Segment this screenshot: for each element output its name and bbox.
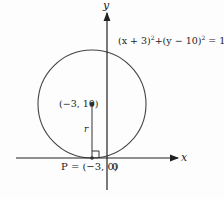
x-axis-label: x [181, 151, 188, 164]
center-label: (−3, 10) [59, 98, 99, 109]
tangent-point [90, 156, 94, 160]
diagram-canvas: y x 0 P = (−3, 0) (−3, 10) r (x + 3)2+(y… [0, 0, 224, 199]
tangent-point-label: P = (−3, 0) [61, 161, 118, 172]
circle-diagram: y x 0 P = (−3, 0) (−3, 10) r (x + 3)2+(y… [0, 0, 224, 199]
equation-label: (x + 3)2+(y − 10)2 = 100 [118, 34, 224, 46]
radius-label: r [84, 124, 89, 134]
y-axis-label: y [102, 0, 110, 12]
